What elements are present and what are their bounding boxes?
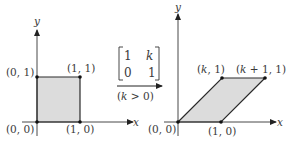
matrix-r1c1: 1 — [124, 49, 132, 63]
diagram-canvas: y x (0, 0) (1, 0) (1, 1) (0, 1) 1 k 0 1 … — [0, 0, 290, 146]
shear-transformation-diagram: y x (0, 0) (1, 0) (1, 1) (0, 1) 1 k 0 1 … — [0, 0, 290, 146]
label-1-0: (1, 0) — [66, 123, 94, 135]
left-x-axis-label: x — [133, 116, 139, 128]
right-x-axis-label: x — [277, 116, 283, 128]
label-origin: (0, 0) — [6, 123, 34, 135]
vertex-dot — [220, 76, 224, 80]
matrix-r1c2: k — [146, 49, 153, 63]
right-plot: y x (0, 0) (1, 0) (k, 1) (k + 1, 1) — [148, 1, 286, 137]
condition-label: (k > 0) — [117, 90, 154, 102]
right-y-axis-label: y — [174, 1, 182, 13]
vertex-dot — [78, 75, 82, 79]
matrix-r2c2: 1 — [148, 66, 156, 80]
unit-square — [37, 77, 80, 122]
vertex-dot — [35, 120, 39, 124]
label-1-1: (1, 1) — [67, 62, 95, 74]
sheared-parallelogram — [178, 78, 265, 122]
vertex-dot — [219, 120, 223, 124]
left-y-axis-label: y — [33, 15, 41, 27]
matrix-r2c1: 0 — [124, 66, 132, 80]
left-bracket — [119, 47, 123, 80]
vertex-dot — [35, 75, 39, 79]
label-0-1: (0, 1) — [6, 66, 34, 78]
label-origin-right: (0, 0) — [148, 123, 176, 135]
label-k-plus-1-1: (k + 1, 1) — [236, 63, 286, 75]
vertex-dot — [176, 120, 180, 124]
label-1-0-right: (1, 0) — [208, 125, 236, 137]
label-k-1: (k, 1) — [197, 63, 225, 75]
transform-matrix: 1 k 0 1 (k > 0) — [117, 47, 162, 102]
vertex-dot — [263, 76, 267, 80]
